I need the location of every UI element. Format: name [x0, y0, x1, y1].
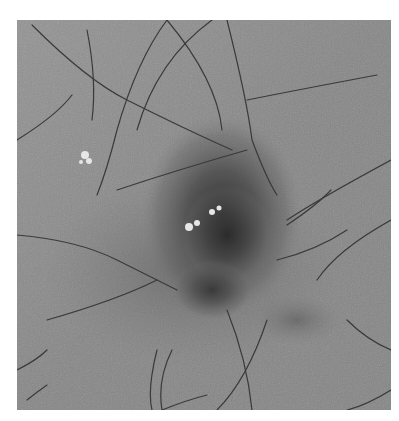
dermoscopy-image	[17, 20, 391, 410]
